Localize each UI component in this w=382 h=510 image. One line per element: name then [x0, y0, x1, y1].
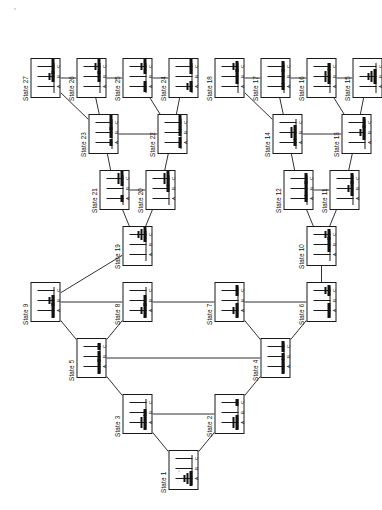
- state-label: State 20: [136, 188, 143, 213]
- peg-group: ABC: [273, 115, 301, 153]
- state-node[interactable]: ABC: [214, 282, 244, 322]
- state-node[interactable]: ABC: [306, 226, 336, 266]
- peg-a: [83, 86, 100, 87]
- state-label: State 19: [113, 244, 120, 269]
- peg-c: [129, 290, 146, 291]
- peg-group: ABC: [123, 59, 151, 97]
- state-node[interactable]: ABC: [214, 58, 244, 98]
- state-node[interactable]: ABC: [329, 170, 359, 210]
- peg-b: [313, 300, 330, 301]
- state-node[interactable]: ABC: [306, 282, 336, 322]
- peg-c: [37, 290, 54, 291]
- peg-label-c: C: [55, 62, 60, 71]
- state-node[interactable]: ABC: [157, 114, 187, 154]
- peg-label-a: A: [354, 194, 359, 203]
- disk-3: [143, 415, 145, 430]
- state-label: State 5: [67, 360, 74, 381]
- state-label: State 3: [113, 416, 120, 437]
- state-node[interactable]: ABC: [76, 338, 106, 378]
- disk-2: [327, 229, 329, 240]
- peg-label-c: C: [297, 118, 302, 127]
- state-label: State 12: [274, 188, 281, 213]
- peg-b: [175, 76, 192, 77]
- disk-2: [140, 417, 142, 428]
- state-node[interactable]: ABC: [30, 58, 60, 98]
- peg-label-c: C: [239, 398, 244, 407]
- state-node[interactable]: ABC: [352, 58, 382, 98]
- peg-label-a: A: [239, 418, 244, 427]
- tree-edge: [329, 210, 336, 226]
- peg-c: [359, 66, 376, 67]
- state-node[interactable]: ABC: [30, 282, 60, 322]
- peg-b: [129, 76, 146, 77]
- state-label: State 11: [320, 188, 327, 213]
- peg-b: [221, 300, 238, 301]
- peg-label-b: B: [354, 184, 359, 193]
- peg-group: ABC: [123, 395, 151, 433]
- peg-label-b: B: [55, 72, 60, 81]
- peg-group: ABC: [31, 283, 59, 321]
- disk-3: [166, 171, 168, 186]
- state-node[interactable]: ABC: [306, 58, 336, 98]
- state-node[interactable]: ABC: [283, 170, 313, 210]
- state-label: State 27: [21, 76, 28, 101]
- disk-1: [94, 63, 96, 70]
- state-label: State 1: [159, 472, 166, 493]
- disk-2: [362, 117, 364, 128]
- peg-label-b: B: [377, 72, 382, 81]
- peg-label-b: B: [147, 72, 152, 81]
- peg-group: ABC: [261, 59, 289, 97]
- state-node[interactable]: ABC: [76, 58, 106, 98]
- state-node[interactable]: ABC: [88, 114, 118, 154]
- peg-label-c: C: [170, 174, 175, 183]
- disk-1: [97, 343, 99, 350]
- peg-group: ABC: [123, 227, 151, 265]
- disk-1: [140, 63, 142, 70]
- peg-group: ABC: [330, 171, 358, 209]
- state-node[interactable]: ABC: [122, 58, 152, 98]
- state-label: State 22: [148, 132, 155, 157]
- state-node[interactable]: ABC: [214, 394, 244, 434]
- disk-1: [327, 63, 329, 70]
- disk-2: [350, 173, 352, 184]
- peg-c: [129, 402, 146, 403]
- state-node[interactable]: ABC: [272, 114, 302, 154]
- peg-label-a: A: [124, 194, 129, 203]
- peg-b: [175, 468, 192, 469]
- disk-3: [281, 359, 283, 374]
- peg-label-b: B: [308, 184, 313, 193]
- peg-label-b: B: [170, 184, 175, 193]
- disk-1: [232, 63, 234, 70]
- peg-label-a: A: [239, 82, 244, 91]
- peg-label-b: B: [124, 184, 129, 193]
- peg-label-a: A: [308, 194, 313, 203]
- state-node[interactable]: ABC: [341, 114, 371, 154]
- peg-label-c: C: [147, 286, 152, 295]
- tree-edge: [150, 98, 160, 114]
- peg-group: ABC: [261, 339, 289, 377]
- state-label: State 16: [297, 76, 304, 101]
- disk-1: [235, 399, 237, 406]
- state-node[interactable]: ABC: [99, 170, 129, 210]
- tree-edge: [279, 98, 282, 114]
- state-node[interactable]: ABC: [168, 450, 198, 490]
- peg-a: [359, 86, 376, 87]
- disk-1: [324, 287, 326, 294]
- peg-c: [279, 122, 296, 123]
- peg-label-a: A: [55, 82, 60, 91]
- state-node[interactable]: ABC: [122, 282, 152, 322]
- state-node[interactable]: ABC: [145, 170, 175, 210]
- state-node[interactable]: ABC: [122, 226, 152, 266]
- state-node[interactable]: ABC: [122, 394, 152, 434]
- state-label: State 17: [251, 76, 258, 101]
- tree-edge: [60, 320, 76, 339]
- peg-label-c: C: [124, 174, 129, 183]
- state-node[interactable]: ABC: [260, 58, 290, 98]
- state-node[interactable]: ABC: [260, 338, 290, 378]
- state-label: State 4: [251, 360, 258, 381]
- state-node[interactable]: ABC: [168, 58, 198, 98]
- disk-3: [109, 115, 111, 130]
- peg-label-b: B: [182, 128, 187, 137]
- disk-1: [137, 231, 139, 238]
